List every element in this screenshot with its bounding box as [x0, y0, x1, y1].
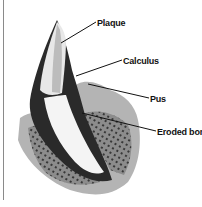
pointer-line-calculus [76, 60, 122, 76]
label-pus: Pus [150, 94, 166, 104]
pointer-line-plaque [61, 22, 96, 43]
label-plaque: Plaque [97, 18, 125, 28]
label-eroded-bone: Eroded boni [157, 127, 202, 137]
label-calculus: Calculus [123, 56, 159, 66]
tooth-illustration [0, 0, 202, 207]
